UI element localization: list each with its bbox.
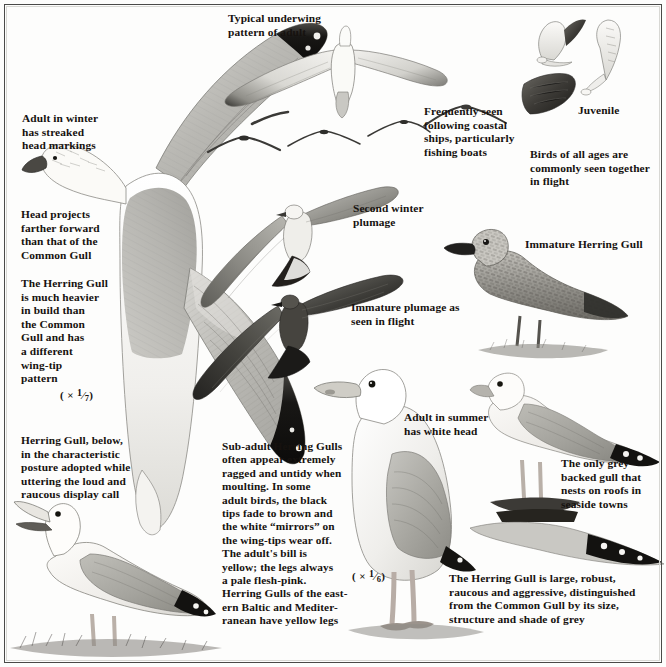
- illustration-plate: Adult in winter has streaked head markin…: [0, 0, 666, 667]
- caption-immature-in-flight: Immature plumage as seen in flight: [351, 301, 460, 328]
- caption-all-ages: Birds of all ages are commonly seen toge…: [530, 148, 650, 189]
- calling-gull: [6, 498, 226, 662]
- scale-left-suffix: ): [89, 389, 93, 401]
- caption-juvenile: Juvenile: [578, 104, 619, 118]
- scale-center-numerator: 1: [369, 568, 374, 579]
- caption-sub-adult-block: Sub-adult Herring Gulls often appear ext…: [222, 440, 348, 628]
- caption-roof-nesting: The only grey- backed gull that nests on…: [561, 457, 641, 511]
- scale-left-prefix: ( ×: [60, 389, 77, 401]
- scale-center-prefix: ( ×: [352, 570, 369, 582]
- caption-summary: The Herring Gull is large, robust, rauco…: [449, 572, 635, 626]
- scale-left-numerator: 1: [77, 387, 82, 398]
- caption-second-winter: Second winter plumage: [353, 202, 424, 229]
- caption-typical-underwing: Typical underwing pattern of adult: [228, 12, 321, 39]
- caption-adult-winter-head: Adult in winter has streaked head markin…: [22, 112, 98, 153]
- caption-display-call: Herring Gull, below, in the characterist…: [21, 434, 130, 502]
- caption-adult-summer: Adult in summer has white head: [404, 411, 488, 438]
- scale-left: ( × 1⁄7): [60, 387, 93, 403]
- scale-center-suffix: ): [381, 570, 385, 582]
- scale-center: ( × 1⁄6): [352, 568, 385, 584]
- caption-head-projects: Head projects farther forward than that …: [21, 208, 100, 262]
- distant-gull-silhouettes: [200, 110, 430, 160]
- caption-immature-herring-gull: Immature Herring Gull: [525, 238, 643, 252]
- caption-heavier-build: The Herring Gull is much heavier in buil…: [21, 277, 108, 386]
- caption-following-ships: Frequently seen following coastal ships,…: [424, 105, 515, 159]
